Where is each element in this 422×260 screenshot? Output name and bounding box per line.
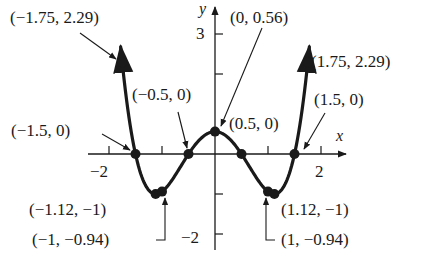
data-point xyxy=(290,149,300,159)
point-label-neg1: (−1, −0.94) xyxy=(32,231,109,248)
tick-label-y-3: 3 xyxy=(196,25,205,42)
y-axis-label: y xyxy=(199,1,206,17)
point-label-pos175: (1.75, 2.29) xyxy=(311,53,390,70)
point-label-zero: (0, 0.56) xyxy=(230,9,288,26)
point-label-pos112: (1.12, −1) xyxy=(281,201,349,218)
data-point xyxy=(117,57,127,67)
arrow-neg175 xyxy=(80,33,116,59)
arrow-neg1 xyxy=(156,198,165,240)
data-point xyxy=(131,149,141,159)
data-point xyxy=(184,149,194,159)
tick-label-y-neg2: −2 xyxy=(181,229,199,246)
point-label-neg175: (−1.75, 2.29) xyxy=(10,9,99,26)
x-axis-label: x xyxy=(336,128,343,144)
data-point xyxy=(210,127,220,137)
point-label-pos15: (1.5, 0) xyxy=(314,91,364,108)
point-label-pos05: (0.5, 0) xyxy=(229,115,279,132)
arrow-neg05 xyxy=(178,112,187,148)
data-point xyxy=(269,189,279,199)
data-point xyxy=(157,187,167,197)
arrow-zero xyxy=(221,28,262,126)
point-label-neg112: (−1.12, −1) xyxy=(29,201,106,218)
arrow-pos15 xyxy=(304,113,325,149)
point-label-neg05: (−0.5, 0) xyxy=(132,86,191,103)
x-axis xyxy=(88,146,346,154)
tick-label-x-neg2: −2 xyxy=(90,163,108,180)
arrow-pos1 xyxy=(266,198,275,240)
data-point xyxy=(237,149,247,159)
arrow-neg15 xyxy=(102,134,130,150)
point-label-pos1: (1, −0.94) xyxy=(281,231,349,248)
tick-label-x-2: 2 xyxy=(315,163,324,180)
point-label-neg15: (−1.5, 0) xyxy=(11,122,70,139)
